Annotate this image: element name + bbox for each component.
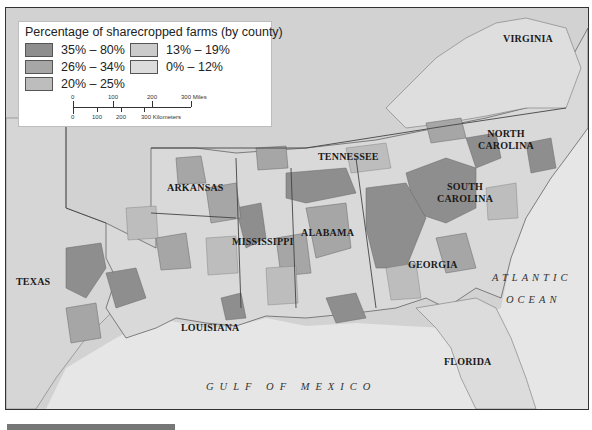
legend-swatch	[25, 77, 53, 91]
label-louisiana: LOUISIANA	[181, 322, 239, 334]
label-ocean: OCEAN	[506, 294, 560, 305]
label-tennessee: TENNESSEE	[318, 151, 379, 163]
map-frame: Percentage of sharecropped farms (by cou…	[5, 7, 589, 410]
label-atlantic: ATLANTIC	[492, 272, 571, 283]
label-mississippi: MISSISSIPPI	[232, 236, 294, 248]
label-virginia: VIRGINIA	[503, 33, 553, 45]
legend-swatch	[130, 60, 158, 74]
legend-swatch	[25, 60, 53, 74]
scale-bar: 0 100 200 300 Miles 0 100 200 300 Kilome…	[65, 96, 205, 126]
legend-item-13-19: 13% – 19%	[130, 43, 230, 57]
legend-item-0-12: 0% – 12%	[130, 60, 223, 74]
label-north-carolina: NORTH CAROLINA	[476, 128, 536, 152]
legend-item-26-34: 26% – 34%	[25, 60, 125, 74]
legend: Percentage of sharecropped farms (by cou…	[18, 21, 272, 127]
label-arkansas: ARKANSAS	[167, 182, 224, 194]
label-georgia: GEORGIA	[408, 259, 458, 271]
label-gulf-of-mexico: GULF OF MEXICO	[206, 381, 376, 392]
label-alabama: ALABAMA	[301, 227, 354, 239]
label-texas: TEXAS	[16, 276, 50, 288]
legend-item-20-25: 20% – 25%	[25, 77, 125, 91]
label-south-carolina: SOUTH CAROLINA	[437, 181, 493, 205]
label-florida: FLORIDA	[444, 356, 492, 368]
caption-bar	[7, 424, 175, 430]
legend-item-35-80: 35% – 80%	[25, 43, 125, 57]
legend-swatch	[130, 43, 158, 57]
legend-title: Percentage of sharecropped farms (by cou…	[25, 25, 283, 39]
legend-swatch	[25, 43, 53, 57]
